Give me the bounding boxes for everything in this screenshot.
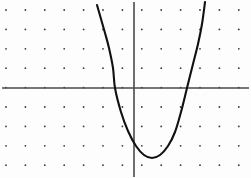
grid-dot [44, 29, 46, 31]
grid-dot [63, 145, 65, 147]
grid-dot [25, 106, 27, 108]
grid-dot [238, 48, 240, 50]
grid-dot [122, 67, 124, 69]
grid-dot [5, 145, 7, 147]
parabola-plot [0, 0, 251, 178]
grid-dot [25, 9, 27, 11]
grid-dot [180, 67, 182, 69]
grid-dot [160, 126, 162, 128]
grid-dot [180, 29, 182, 31]
grid-dot [180, 126, 182, 128]
grid-dot [83, 48, 85, 50]
grid-dot [141, 145, 143, 147]
grid-dot [63, 106, 65, 108]
grid-dot [25, 145, 27, 147]
grid-dot [238, 126, 240, 128]
grid-dot [63, 29, 65, 31]
grid-dot [5, 106, 7, 108]
grid-dot [25, 126, 27, 128]
grid-dot [44, 164, 46, 166]
grid-dot [199, 106, 201, 108]
grid-dot [5, 67, 7, 69]
grid-dot [141, 29, 143, 31]
grid-dot [83, 106, 85, 108]
grid-dot [83, 164, 85, 166]
grid-dot [238, 164, 240, 166]
grid-dot [102, 126, 104, 128]
grid-dot [219, 145, 221, 147]
grid-dot [25, 164, 27, 166]
grid-dot [199, 67, 201, 69]
grid-dot [199, 164, 201, 166]
grid-dot [83, 126, 85, 128]
grid-dot [44, 48, 46, 50]
grid-dot [44, 106, 46, 108]
grid-dot [141, 9, 143, 11]
grid-dot [102, 145, 104, 147]
grid-dot [102, 164, 104, 166]
grid-dot [141, 106, 143, 108]
graph-figure [0, 0, 251, 178]
grid-dot [219, 67, 221, 69]
grid-dot [83, 29, 85, 31]
grid-dot [219, 106, 221, 108]
grid-dot [141, 48, 143, 50]
grid-dot [141, 126, 143, 128]
grid-dot [238, 29, 240, 31]
grid-dot [102, 9, 104, 11]
grid-dot [160, 106, 162, 108]
grid-dot [44, 9, 46, 11]
grid-dot [83, 145, 85, 147]
grid-dot [141, 67, 143, 69]
grid-dot [238, 9, 240, 11]
grid-dot [44, 67, 46, 69]
grid-dot [238, 67, 240, 69]
grid-dot [122, 145, 124, 147]
grid-dot [63, 67, 65, 69]
grid-dot [63, 48, 65, 50]
grid-dot [160, 145, 162, 147]
grid-dot [44, 126, 46, 128]
grid-dot [219, 164, 221, 166]
grid-dot [160, 67, 162, 69]
grid-dot [25, 29, 27, 31]
grid-dot [180, 9, 182, 11]
grid-dot [5, 9, 7, 11]
grid-dot [180, 145, 182, 147]
grid-dot [199, 9, 201, 11]
grid-dot [5, 126, 7, 128]
grid-dot [160, 29, 162, 31]
grid-dot [122, 126, 124, 128]
grid-dot [160, 9, 162, 11]
grid-dot [219, 48, 221, 50]
grid-dot [199, 48, 201, 50]
grid-dot [122, 164, 124, 166]
grid-dot [160, 164, 162, 166]
grid-dot [141, 164, 143, 166]
grid-dot [102, 67, 104, 69]
grid-dot [160, 48, 162, 50]
grid-dot [180, 164, 182, 166]
grid-dot [102, 106, 104, 108]
grid-dot [5, 164, 7, 166]
grid-dot [63, 164, 65, 166]
grid-dot [25, 67, 27, 69]
grid-dot [199, 126, 201, 128]
grid-dot [199, 145, 201, 147]
grid-dot [44, 145, 46, 147]
grid-dot [180, 48, 182, 50]
grid-dot [238, 145, 240, 147]
grid-dot [83, 67, 85, 69]
grid-dot [63, 9, 65, 11]
grid-dot [122, 9, 124, 11]
grid-dot [5, 29, 7, 31]
grid-dot [219, 9, 221, 11]
grid-dot [122, 106, 124, 108]
grid-dot [5, 48, 7, 50]
grid-dot [63, 126, 65, 128]
grid-dot [122, 29, 124, 31]
grid-dot [102, 48, 104, 50]
grid-dot [219, 29, 221, 31]
grid-dot [83, 9, 85, 11]
parabola-curve [97, 2, 205, 158]
